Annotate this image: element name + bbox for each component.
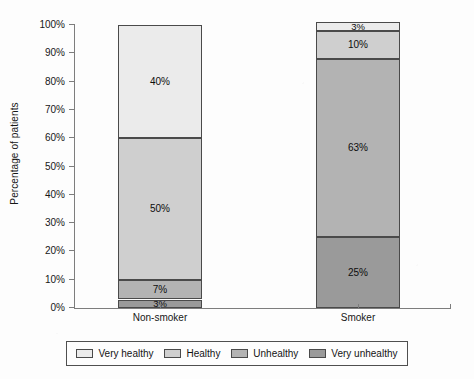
y-axis-tick: 30% — [0, 217, 74, 229]
y-axis-tick-label: 10% — [45, 274, 65, 286]
legend-swatch-icon — [231, 349, 248, 358]
y-axis-tick: 70% — [0, 104, 74, 116]
x-axis-tick-mark — [358, 304, 359, 309]
bar-segment-healthy[interactable]: 10% — [316, 31, 400, 59]
y-axis-tick: 20% — [0, 245, 74, 257]
y-axis-tick-mark — [69, 24, 74, 25]
legend-item-unhealthy[interactable]: Unhealthy — [231, 348, 298, 359]
y-axis-tick-label: 40% — [45, 189, 65, 201]
bar-segment-unhealthy[interactable]: 63% — [316, 59, 400, 237]
y-axis-tick: 0% — [0, 302, 74, 314]
y-axis-line — [74, 24, 75, 309]
legend-item-very-unhealthy[interactable]: Very unhealthy — [309, 348, 397, 359]
bar-segment-value-label: 3% — [351, 22, 365, 30]
legend-label: Unhealthy — [253, 348, 298, 359]
x-axis-category-label: Non-smoker — [90, 312, 230, 323]
legend: Very healthyHealthyUnhealthyVery unhealt… — [66, 341, 408, 366]
stacked-bar-chart: Percentage of patients 0%10%20%30%40%50%… — [0, 0, 474, 379]
legend-label: Very healthy — [98, 348, 153, 359]
y-axis-tick: 60% — [0, 132, 74, 144]
legend-item-healthy[interactable]: Healthy — [164, 348, 220, 359]
bar-segment-healthy[interactable]: 50% — [118, 138, 202, 280]
y-axis-tick-mark — [69, 279, 74, 280]
bar-segment-unhealthy[interactable]: 7% — [118, 280, 202, 300]
x-axis-category-label: Smoker — [288, 312, 428, 323]
y-axis-tick: 80% — [0, 76, 74, 88]
y-axis-tick-label: 60% — [45, 132, 65, 144]
bar-segment-very-healthy[interactable]: 3% — [316, 22, 400, 30]
y-axis-tick-mark — [69, 81, 74, 82]
legend-swatch-icon — [76, 349, 93, 358]
y-axis-tick: 10% — [0, 274, 74, 286]
y-axis-tick: 100% — [0, 19, 74, 31]
y-axis-tick-mark — [69, 250, 74, 251]
legend-swatch-icon — [309, 349, 326, 358]
bar-segment-value-label: 25% — [348, 268, 368, 278]
bar-segment-value-label: 50% — [150, 204, 170, 214]
legend-item-very-healthy[interactable]: Very healthy — [76, 348, 153, 359]
y-axis-tick-mark — [69, 52, 74, 53]
y-axis-tick-label: 80% — [45, 76, 65, 88]
legend-swatch-icon — [164, 349, 181, 358]
bar-segment-value-label: 10% — [348, 40, 368, 50]
legend-label: Very unhealthy — [331, 348, 397, 359]
y-axis-tick: 90% — [0, 47, 74, 59]
y-axis-tick-label: 70% — [45, 104, 65, 116]
x-axis-end-tick — [450, 304, 451, 309]
y-axis-tick-mark — [69, 222, 74, 223]
x-axis-tick-mark — [160, 304, 161, 309]
y-axis-tick-label: 90% — [45, 47, 65, 59]
y-axis-tick: 40% — [0, 189, 74, 201]
y-axis-tick-mark — [69, 166, 74, 167]
y-axis-tick: 50% — [0, 161, 74, 173]
x-axis-line — [74, 308, 451, 309]
y-axis-tick-mark — [69, 109, 74, 110]
y-axis-tick-mark — [69, 307, 74, 308]
legend-label: Healthy — [186, 348, 220, 359]
y-axis-tick-mark — [69, 137, 74, 138]
bar-segment-very-unhealthy[interactable]: 25% — [316, 237, 400, 308]
y-axis-tick-label: 100% — [39, 19, 65, 31]
y-axis-tick-label: 50% — [45, 161, 65, 173]
bar-segment-value-label: 63% — [348, 143, 368, 153]
bar-segment-very-healthy[interactable]: 40% — [118, 25, 202, 138]
y-axis-tick-label: 30% — [45, 217, 65, 229]
bar-segment-value-label: 40% — [150, 77, 170, 87]
bar-segment-value-label: 7% — [153, 285, 167, 295]
y-axis-tick-mark — [69, 194, 74, 195]
y-axis-tick-label: 20% — [45, 245, 65, 257]
y-axis-tick-label: 0% — [51, 302, 65, 314]
